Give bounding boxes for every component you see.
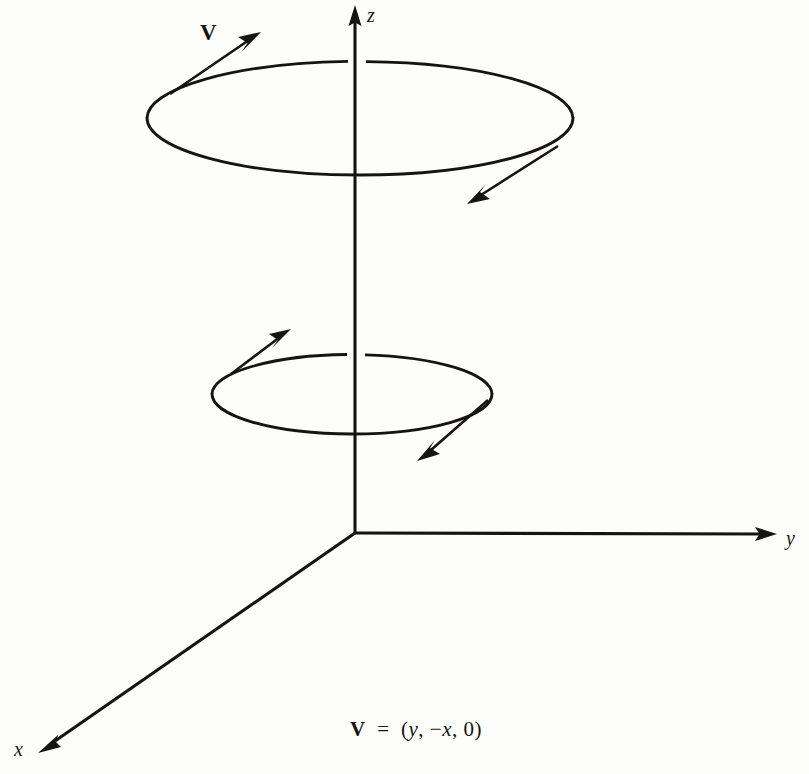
figure-canvas: V z y x V = (y, −x, 0) — [0, 0, 809, 774]
flow-arrow-upper-right — [467, 146, 558, 204]
flow-arrow-lower-left — [231, 329, 291, 374]
upper-left-tangent-shaft — [170, 40, 249, 94]
lower-right-tangent-arrowhead — [417, 440, 440, 461]
upper-left-tangent-arrowhead — [238, 32, 261, 52]
caption-component-2: x — [442, 717, 452, 741]
caption-close-paren: ) — [475, 717, 483, 741]
upper-right-tangent-arrowhead — [467, 184, 490, 204]
caption-component-3: 0 — [464, 717, 475, 741]
vector-field-diagram: V z y x — [0, 0, 809, 774]
lower-circle-back-arc-right — [365, 355, 492, 394]
y-axis-label: y — [784, 527, 795, 550]
upper-circle-back-arc-right — [366, 62, 573, 118]
caption-component-1: y — [409, 717, 419, 741]
y-axis-line — [355, 533, 762, 534]
lower-left-tangent-shaft — [231, 337, 280, 374]
vector-field-label: V — [200, 20, 217, 45]
flow-arrow-lower-right — [417, 400, 488, 461]
caption-equals: = — [377, 717, 389, 741]
upper-right-tangent-shaft — [481, 146, 558, 195]
caption-vector-symbol: V — [350, 717, 366, 741]
lower-flow-circle — [212, 355, 492, 435]
upper-circle-front-arc — [147, 118, 573, 175]
caption-spacer-1 — [366, 717, 378, 741]
caption-spacer-2 — [390, 717, 402, 741]
z-axis — [349, 5, 362, 533]
figure-caption: V = (y, −x, 0) — [0, 692, 809, 767]
caption-open-paren: ( — [401, 717, 409, 741]
lower-left-tangent-arrowhead — [269, 329, 291, 348]
z-axis-label: z — [366, 4, 375, 26]
caption-minus-sign: − — [430, 717, 442, 741]
lower-circle-front-arc — [212, 394, 492, 434]
y-axis — [355, 527, 777, 541]
upper-flow-circle — [147, 61, 573, 175]
